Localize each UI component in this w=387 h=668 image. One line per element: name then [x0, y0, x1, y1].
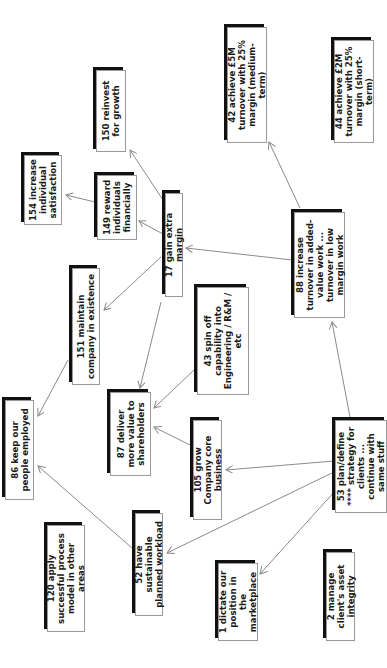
goal-node-150: 150 reinvest for growth: [96, 70, 126, 152]
goal-node-label: 1 dictate our position in the marketplac…: [218, 563, 258, 641]
goal-node-120: 120 apply successful process model in ot…: [47, 525, 85, 632]
goal-node-label: 150 reinvest for growth: [96, 70, 126, 152]
goal-node-label: 149 reward individuals financially: [97, 175, 137, 240]
goal-node-label: 120 apply successful process model in ot…: [47, 525, 85, 632]
goal-node-1: 1 dictate our position in the marketplac…: [218, 563, 258, 641]
goal-node-149: 149 reward individuals financially: [97, 175, 137, 240]
edge-17-to-149: [139, 221, 163, 234]
goal-node-label: 52 have sustainable planned workload: [135, 513, 163, 616]
goal-node-43: 43 spin off capability into Engineering …: [197, 287, 249, 395]
goal-node-86: 86 keep our people employed: [5, 400, 34, 500]
goal-node-52: 52 have sustainable planned workload: [135, 513, 163, 616]
goal-node-88: 88 increase turnover in added-value work…: [294, 212, 345, 318]
goal-node-label: 53 plan/define **** strategy for clients…: [335, 420, 387, 513]
goal-node-label: 17 gain extra margin: [165, 193, 183, 297]
goal-node-label: 105 grow Company core business: [193, 420, 222, 520]
edge-43-to-87: [154, 370, 194, 408]
goal-node-105: 105 grow Company core business: [193, 420, 222, 520]
goal-node-42: 42 achieve £5M turnover with 25% margin …: [227, 27, 267, 143]
goal-node-87: 87 deliver more value to shareholders: [110, 392, 151, 476]
edge-53-to-105: [226, 461, 334, 470]
goal-node-44: 44 achieve £2M turnover with 25% margin …: [334, 40, 374, 143]
edge-88-to-17: [186, 248, 292, 260]
edge-17-to-151: [104, 257, 161, 310]
goal-diagram: 150 reinvest for growth154 increase indi…: [0, 0, 387, 668]
edge-53-to-88: [332, 322, 350, 417]
goal-node-label: 43 spin off capability into Engineering …: [197, 287, 249, 395]
edge-105-to-87: [154, 427, 190, 445]
goal-node-label: 87 deliver more value to shareholders: [110, 392, 151, 476]
goal-node-label: 151 maintain company in existence: [72, 268, 100, 385]
goal-node-2: 2 manage client's asset integrity: [326, 552, 355, 641]
edge-149-to-154: [66, 195, 95, 202]
goal-node-53: 53 plan/define **** strategy for clients…: [335, 420, 387, 513]
edge-151-to-86: [38, 360, 68, 416]
goal-node-151: 151 maintain company in existence: [72, 268, 100, 385]
goal-node-label: 154 increase individual satisfaction: [24, 155, 62, 225]
goal-node-label: 44 achieve £2M turnover with 25% margin …: [334, 40, 374, 143]
goal-node-label: 42 achieve £5M turnover with 25% margin …: [227, 27, 267, 143]
goal-node-154: 154 increase individual satisfaction: [24, 155, 62, 225]
edge-88-to-42: [269, 142, 300, 208]
goal-node-label: 2 manage client's asset integrity: [326, 552, 355, 641]
goal-node-17: 17 gain extra margin: [165, 193, 183, 297]
goal-node-label: 88 increase turnover in added-value work…: [294, 212, 345, 318]
goal-node-label: 86 keep our people employed: [5, 400, 34, 500]
edge-17-to-87: [140, 302, 161, 388]
